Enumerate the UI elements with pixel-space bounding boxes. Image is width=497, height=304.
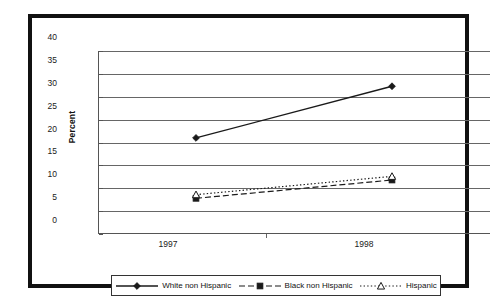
y-axis-tick-mark — [99, 234, 103, 235]
legend-label: Hispanic — [406, 281, 437, 290]
legend-entry: Hispanic — [359, 280, 437, 292]
gridline — [99, 51, 490, 52]
chart-legend: White non HispanicBlack non HispanicHisp… — [111, 275, 441, 296]
gridline — [99, 143, 490, 144]
legend-entry: Black non Hispanic — [238, 280, 353, 292]
triangle-marker-icon — [359, 280, 403, 292]
x-axis-tick-label: 1998 — [334, 240, 394, 249]
y-axis-tick-mark — [99, 188, 103, 189]
y-axis-tick-mark — [99, 51, 103, 52]
y-axis-tick-label: 30 — [31, 79, 57, 88]
gridline — [99, 211, 490, 212]
y-axis-tick-label: 10 — [31, 170, 57, 179]
plot-area — [98, 51, 490, 234]
y-axis-tick-label: 5 — [31, 193, 57, 202]
y-axis-tick-mark — [99, 74, 103, 75]
y-axis-tick-mark — [99, 120, 103, 121]
y-axis-tick-mark — [99, 211, 103, 212]
gridline — [99, 165, 490, 166]
chart-figure: Percent White non HispanicBlack non Hisp… — [0, 0, 497, 304]
gridline — [99, 120, 490, 121]
y-axis-tick-label: 15 — [31, 147, 57, 156]
y-axis-tick-mark — [99, 143, 103, 144]
x-axis-tick-mark — [266, 234, 267, 238]
y-axis-title: Percent — [67, 111, 77, 144]
y-axis-tick-label: 20 — [31, 125, 57, 134]
y-axis-tick-label: 40 — [31, 33, 57, 42]
legend-label: White non Hispanic — [162, 281, 231, 290]
legend-entry: White non Hispanic — [115, 280, 231, 292]
y-axis-tick-label: 35 — [31, 56, 57, 65]
square-marker-icon — [238, 280, 282, 292]
gridline — [99, 188, 490, 189]
y-axis-tick-label: 25 — [31, 102, 57, 111]
y-axis-tick-mark — [99, 97, 103, 98]
chart-outer-frame: Percent White non HispanicBlack non Hisp… — [28, 14, 469, 288]
y-axis-tick-label: 0 — [31, 216, 57, 225]
x-axis-tick-label: 1997 — [138, 240, 198, 249]
gridline — [99, 74, 490, 75]
legend-label: Black non Hispanic — [285, 281, 353, 290]
gridline — [99, 97, 490, 98]
y-axis-tick-mark — [99, 165, 103, 166]
diamond-marker-icon — [115, 280, 159, 292]
